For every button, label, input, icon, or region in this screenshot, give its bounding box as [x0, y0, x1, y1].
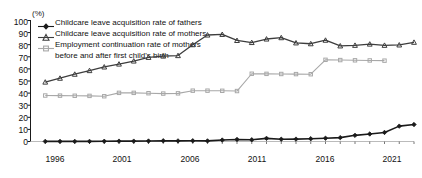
chart-container: (%) 100 90 80 70 60 50 40 30 20 10 0 199… — [0, 0, 422, 178]
plot-area — [0, 0, 422, 178]
series-0 — [43, 122, 416, 143]
axis-lines — [28, 20, 415, 144]
series-2 — [44, 58, 387, 98]
series-1 — [43, 32, 417, 84]
series-layer — [43, 32, 417, 144]
